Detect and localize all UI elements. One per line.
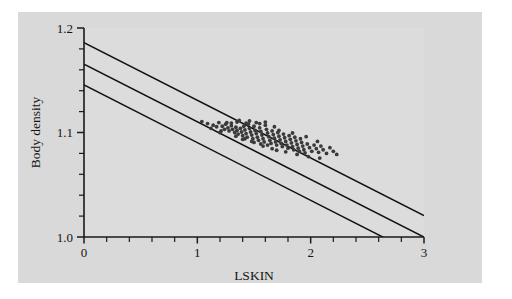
scatter-point bbox=[270, 147, 274, 151]
scatter-point bbox=[282, 132, 286, 136]
figure-root: 01231.01.11.2LSKINBody density bbox=[0, 0, 512, 299]
y-tick-label: 1.0 bbox=[57, 230, 73, 245]
x-tick-label: 0 bbox=[81, 245, 88, 260]
scatter-point bbox=[258, 126, 262, 130]
scatter-point bbox=[284, 150, 288, 154]
y-tick-label: 1.1 bbox=[57, 125, 73, 140]
scatter-point bbox=[259, 130, 263, 134]
scatter-point bbox=[319, 144, 323, 148]
scatter-point bbox=[209, 126, 213, 130]
x-tick-label: 1 bbox=[194, 245, 201, 260]
scatter-point bbox=[248, 119, 252, 123]
scatter-point bbox=[263, 123, 267, 127]
scatter-point bbox=[297, 149, 301, 153]
scatter-point bbox=[259, 142, 263, 146]
scatter-point bbox=[206, 122, 210, 126]
scatter-point bbox=[269, 142, 273, 146]
y-tick-label: 1.2 bbox=[57, 21, 73, 36]
scatter-point bbox=[270, 129, 274, 133]
scatter-point bbox=[317, 150, 321, 154]
scatter-point bbox=[295, 143, 299, 147]
plot-area-background bbox=[84, 28, 424, 237]
scatter-point bbox=[218, 131, 222, 135]
scatter-point bbox=[277, 134, 281, 138]
scatter-point bbox=[250, 139, 254, 143]
scatter-point bbox=[223, 127, 227, 131]
scatter-point bbox=[283, 136, 287, 140]
scatter-point bbox=[278, 138, 282, 142]
scatter-point bbox=[331, 149, 335, 153]
scatter-point bbox=[235, 120, 239, 124]
scatter-point bbox=[211, 123, 215, 127]
scatter-point bbox=[235, 129, 239, 133]
scatter-point bbox=[273, 136, 277, 140]
scatter-point bbox=[267, 135, 271, 139]
scatter-point bbox=[299, 137, 303, 141]
scatter-point bbox=[254, 132, 258, 136]
scatter-point bbox=[275, 148, 279, 152]
scatter-point bbox=[265, 127, 269, 131]
scatter-point bbox=[215, 125, 219, 129]
scatter-point bbox=[231, 127, 235, 131]
scatter-point bbox=[308, 146, 312, 150]
scatter-point bbox=[254, 121, 258, 125]
scatter-point bbox=[293, 135, 297, 139]
scatter-point bbox=[310, 149, 314, 153]
scatter-point bbox=[294, 139, 298, 143]
scatter-point bbox=[280, 145, 284, 149]
x-axis-label: LSKIN bbox=[234, 268, 274, 283]
scatter-point bbox=[300, 141, 304, 145]
scatter-point bbox=[277, 129, 281, 133]
scatter-point bbox=[227, 129, 231, 133]
scatter-chart: 01231.01.11.2LSKINBody density bbox=[0, 0, 512, 299]
scatter-point bbox=[287, 134, 291, 138]
x-tick-label: 3 bbox=[421, 245, 428, 260]
scatter-point bbox=[321, 148, 325, 152]
scatter-point bbox=[250, 133, 254, 137]
scatter-point bbox=[316, 139, 320, 143]
scatter-point bbox=[301, 144, 305, 148]
scatter-point bbox=[239, 126, 243, 130]
scatter-point bbox=[325, 152, 329, 156]
scatter-point bbox=[292, 148, 296, 152]
scatter-point bbox=[303, 151, 307, 155]
scatter-point bbox=[273, 125, 277, 129]
scatter-point bbox=[288, 137, 292, 141]
scatter-point bbox=[271, 133, 275, 137]
scatter-point bbox=[241, 134, 245, 138]
scatter-point bbox=[275, 143, 279, 147]
scatter-point bbox=[243, 128, 247, 132]
x-tick-label: 2 bbox=[307, 245, 314, 260]
scatter-point bbox=[200, 120, 204, 124]
scatter-point bbox=[258, 122, 262, 126]
scatter-point bbox=[240, 130, 244, 134]
scatter-point bbox=[318, 156, 322, 160]
scatter-point bbox=[225, 121, 229, 125]
scatter-point bbox=[244, 121, 248, 125]
scatter-point bbox=[286, 146, 290, 150]
scatter-point bbox=[266, 131, 270, 135]
scatter-point bbox=[312, 143, 316, 147]
scatter-point bbox=[314, 147, 318, 151]
scatter-point bbox=[242, 124, 246, 128]
scatter-point bbox=[262, 140, 266, 144]
scatter-point bbox=[328, 146, 332, 150]
scatter-point bbox=[257, 138, 261, 142]
scatter-point bbox=[244, 132, 248, 136]
scatter-point bbox=[229, 121, 233, 125]
scatter-point bbox=[217, 121, 221, 125]
scatter-point bbox=[290, 141, 294, 145]
scatter-point bbox=[307, 155, 311, 159]
scatter-point bbox=[220, 124, 224, 128]
scatter-point bbox=[305, 142, 309, 146]
scatter-point bbox=[295, 153, 299, 157]
y-axis-label: Body density bbox=[28, 96, 43, 168]
scatter-point bbox=[241, 137, 245, 141]
scatter-point bbox=[252, 124, 256, 128]
scatter-point bbox=[304, 135, 308, 139]
scatter-point bbox=[291, 131, 295, 135]
scatter-point bbox=[284, 139, 288, 143]
scatter-point bbox=[248, 126, 252, 130]
scatter-point bbox=[266, 143, 270, 147]
scatter-point bbox=[260, 133, 264, 137]
